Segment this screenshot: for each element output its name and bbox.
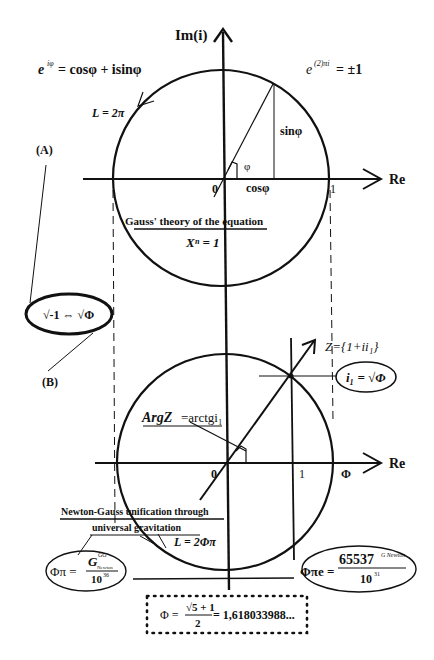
equivalence-text: √-1 ⇔ √Φ — [43, 308, 94, 322]
svg-text:Φπ =: Φπ = — [50, 564, 77, 579]
label-a: (A) — [36, 143, 53, 157]
angle-phi-label: φ — [244, 160, 250, 172]
bottom-real-axis-label: Re — [389, 456, 405, 471]
svg-text:= cosφ + isinφ: = cosφ + isinφ — [58, 62, 142, 77]
top-circumference-label: L = 2π — [91, 106, 125, 120]
bottom-golden-circle-diagram: Re Z={1+ii₁} i₁ = √Φ ArgZ =arctgi₁ 0 1 Φ… — [60, 338, 405, 570]
formula-left-leader-line — [78, 535, 92, 555]
bottom-origin-label: 0 — [211, 467, 217, 481]
i1-label: i₁ = √Φ — [346, 370, 386, 385]
svg-text:e: e — [38, 62, 44, 77]
newton-gauss-caption-line2: universal gravitation — [92, 522, 182, 533]
top-origin-label: 0 — [212, 182, 218, 196]
label-b-leader-line — [48, 333, 93, 371]
formula-connector-line — [133, 578, 294, 579]
svg-text:65537: 65537 — [339, 552, 374, 567]
gauss-caption-line2: Xⁿ = 1 — [185, 235, 220, 250]
cos-label: cosφ — [246, 181, 270, 195]
right-projection-dashed-line — [330, 190, 333, 420]
svg-text:G Newton: G Newton — [381, 552, 405, 558]
argz-label-part1: ArgZ — [141, 410, 173, 425]
top-real-axis-label: Re — [389, 172, 405, 187]
svg-text:(2)πi: (2)πi — [314, 59, 330, 68]
svg-text:= ±1: = ±1 — [336, 62, 362, 77]
svg-text:Φ =: Φ = — [160, 608, 179, 622]
newton-gauss-caption-line1: Newton-Gauss unification through — [61, 506, 209, 517]
imaginary-axis — [223, 32, 229, 590]
bottom-phi-label: Φ — [341, 467, 351, 481]
top-unit-label: 1 — [330, 182, 336, 196]
formula-right: Φπe = 65537 G Newton 10 31 — [300, 546, 416, 592]
svg-text:GG: GG — [98, 552, 107, 558]
svg-text:e: e — [306, 62, 312, 77]
svg-text:10: 10 — [91, 573, 103, 585]
euler-identity: e (2)πi = ±1 — [306, 59, 362, 77]
bottom-unit-label: 1 — [299, 467, 305, 481]
gauss-caption-line1: Gauss' theory of the equation — [125, 215, 263, 227]
angle-marker-icon — [228, 162, 237, 178]
svg-text:√5 + 1: √5 + 1 — [186, 601, 215, 613]
label-a-leader-line — [30, 165, 46, 303]
golden-ratio-box: Φ = √5 + 1 2 = 1,618033988... — [147, 596, 307, 633]
svg-text:= 1,618033988...: = 1,618033988... — [213, 608, 295, 622]
svg-text:36: 36 — [103, 572, 109, 578]
intersection-point — [289, 374, 294, 379]
svg-text:Newton: Newton — [97, 565, 113, 570]
imaginary-axis-label: Im(i) — [175, 27, 208, 44]
left-projection-dashed-line — [113, 190, 115, 525]
svg-text:2: 2 — [195, 617, 201, 629]
svg-text:Φπe =: Φπe = — [300, 564, 334, 579]
svg-text:iφ: iφ — [47, 59, 54, 68]
z-label: Z={1+ii₁} — [325, 339, 379, 354]
label-b: (B) — [42, 375, 58, 389]
sin-label: sinφ — [280, 124, 303, 138]
formula-left: Φπ = G GG Newton 10 36 — [46, 551, 126, 591]
euler-formula: e iφ = cosφ + isinφ — [38, 59, 142, 77]
tangent-line-right — [158, 534, 166, 548]
bottom-circumference-label: L = 2Φπ — [173, 535, 216, 549]
argz-label-part2: =arctgi₁ — [181, 410, 222, 425]
svg-text:10: 10 — [360, 572, 372, 586]
euler-golden-ratio-diagram: Im(i) Re sinφ φ cosφ 0 1 L = 2π e iφ = c… — [0, 0, 434, 660]
svg-text:31: 31 — [374, 571, 380, 577]
